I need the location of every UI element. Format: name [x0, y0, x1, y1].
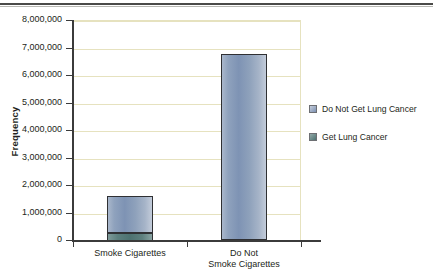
legend-item[interactable]: Do Not Get Lung Cancer	[309, 104, 433, 114]
y-axis-tick	[66, 185, 73, 186]
bar-segment	[221, 54, 267, 240]
x-axis-category-label-line: Smoke Cigarettes	[187, 259, 301, 270]
y-axis-tick-label: 5,000,000	[0, 97, 62, 107]
y-axis-tick-label: 4,000,000	[0, 124, 62, 134]
legend-swatch-icon	[309, 133, 317, 141]
x-axis-tick	[73, 241, 74, 247]
y-axis-tick	[66, 240, 73, 241]
y-axis-tick-label: 2,000,000	[0, 179, 62, 189]
bar-column	[221, 54, 267, 241]
y-axis-tick-label: 7,000,000	[0, 42, 62, 52]
plot-area	[73, 20, 301, 240]
y-axis-tick	[66, 130, 73, 131]
y-axis-tick-label: 3,000,000	[0, 152, 62, 162]
y-axis-tick-label: 8,000,000	[0, 14, 62, 24]
y-axis-tick	[66, 48, 73, 49]
gridline	[73, 21, 300, 22]
y-axis-tick-label: 6,000,000	[0, 69, 62, 79]
y-axis-tick	[66, 75, 73, 76]
legend-item[interactable]: Get Lung Cancer	[309, 132, 433, 142]
y-axis-tick	[66, 103, 73, 104]
x-axis-line	[72, 240, 321, 242]
y-axis-tick	[66, 213, 73, 214]
legend-label: Do Not Get Lung Cancer	[322, 104, 417, 114]
x-axis-category-label: Smoke Cigarettes	[73, 248, 187, 259]
x-axis-category-label-line: Do Not	[187, 248, 301, 259]
x-axis-tick	[301, 241, 302, 247]
x-axis-category-label-line: Smoke Cigarettes	[73, 248, 187, 259]
legend-label: Get Lung Cancer	[322, 132, 387, 142]
page-top-rule-secondary	[0, 6, 433, 7]
x-axis-category-label: Do NotSmoke Cigarettes	[187, 248, 301, 270]
y-axis-tick-label: 1,000,000	[0, 207, 62, 217]
y-axis-tick-label: 0	[0, 234, 62, 244]
legend-swatch-icon	[309, 105, 317, 113]
bar-segment	[107, 196, 153, 233]
bar-column	[107, 196, 153, 241]
chart-legend: Do Not Get Lung CancerGet Lung Cancer	[309, 104, 433, 160]
y-axis-tick	[66, 20, 73, 21]
y-axis-tick	[66, 158, 73, 159]
gridline	[73, 49, 300, 50]
page-top-rule	[0, 3, 433, 5]
x-axis-tick	[187, 241, 188, 247]
bar-chart: Frequency 8,000,0007,000,0006,000,0005,0…	[0, 8, 433, 275]
